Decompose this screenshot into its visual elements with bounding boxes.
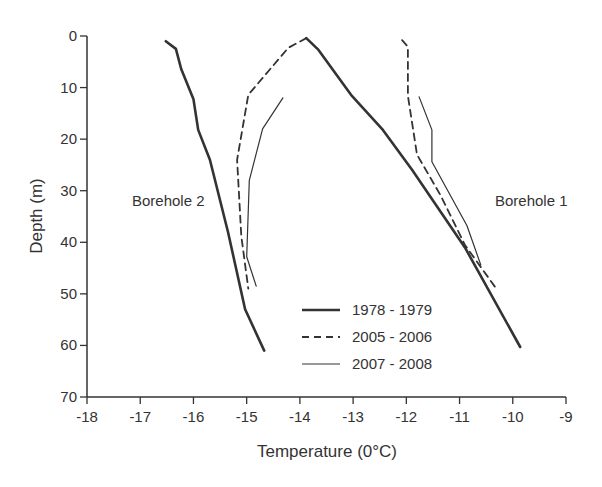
y-tick-label: 70 [60,388,77,405]
legend-label: 2007 - 2008 [352,355,432,372]
x-tick-label: -9 [559,408,572,425]
label-borehole-2: Borehole 2 [132,192,205,209]
chart: 010203040506070-18-17-16-15-14-13-12-11-… [0,0,602,487]
annotations: Borehole 2Borehole 1 [132,192,568,209]
legend-label: 1978 - 1979 [352,301,432,318]
y-tick-label: 30 [60,182,77,199]
x-tick-label: -16 [183,408,205,425]
x-tick-label: -15 [236,408,258,425]
x-tick-label: -14 [289,408,311,425]
legend-label: 2005 - 2006 [352,328,432,345]
data-series [166,38,520,351]
x-tick-label: -18 [76,408,98,425]
x-tick-label: -13 [342,408,364,425]
y-axis-title: Depth (m) [27,178,46,254]
axes: 010203040506070-18-17-16-15-14-13-12-11-… [27,27,573,461]
y-tick-label: 50 [60,285,77,302]
series-borehole-1-2005-2006 [402,40,496,289]
series-borehole-2-2007-2008 [247,98,283,286]
x-tick-label: -10 [502,408,524,425]
series-borehole-1-2007-2008 [419,97,481,265]
y-tick-label: 20 [60,130,77,147]
x-tick-label: -12 [395,408,417,425]
x-tick-label: -11 [449,408,470,425]
label-borehole-1: Borehole 1 [495,192,568,209]
x-axis-title: Temperature (0°C) [257,442,397,461]
y-tick-label: 40 [60,233,77,250]
y-tick-label: 10 [60,79,77,96]
x-tick-label: -17 [129,408,151,425]
y-tick-label: 60 [60,336,77,353]
legend: 1978 - 19792005 - 20062007 - 2008 [302,301,432,372]
y-tick-label: 0 [69,27,77,44]
